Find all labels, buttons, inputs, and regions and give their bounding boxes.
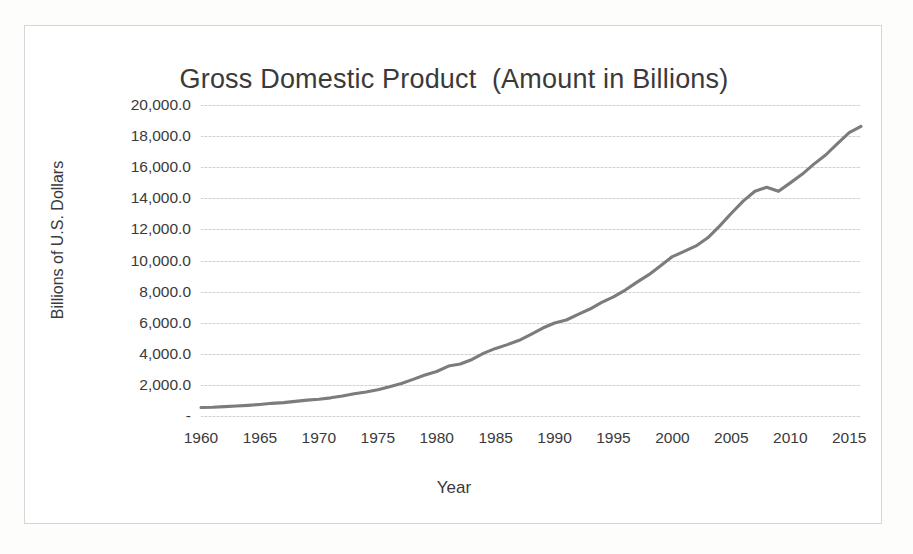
plot-area [201, 105, 861, 416]
x-axis-tick-labels: 1960196519701975198019851990199520002005… [201, 429, 861, 453]
x-tick-label: 1990 [525, 429, 585, 447]
chart-frame: Gross Domestic Product (Amount in Billio… [24, 25, 882, 524]
y-tick-label: 4,000.0 [99, 346, 191, 362]
y-tick-label: 6,000.0 [99, 315, 191, 331]
y-tick-label: 16,000.0 [99, 159, 191, 175]
x-tick-label: 1960 [171, 429, 231, 447]
gdp-line-path [201, 126, 861, 407]
x-tick-label: 2010 [760, 429, 820, 447]
x-tick-label: 1970 [289, 429, 349, 447]
y-tick-label: 12,000.0 [99, 221, 191, 237]
y-tick-label: 20,000.0 [99, 97, 191, 113]
y-tick-label: 10,000.0 [99, 253, 191, 269]
y-tick-label: 18,000.0 [99, 128, 191, 144]
x-tick-label: 1965 [230, 429, 290, 447]
y-tick-label: 2,000.0 [99, 377, 191, 393]
chart-title: Gross Domestic Product (Amount in Billio… [25, 64, 883, 95]
x-tick-label: 1985 [466, 429, 526, 447]
gridline [201, 416, 861, 417]
y-axis-title: Billions of U.S. Dollars [49, 145, 67, 335]
x-tick-label: 1980 [407, 429, 467, 447]
y-tick-label: - [99, 408, 191, 424]
x-tick-label: 1975 [348, 429, 408, 447]
x-tick-label: 1995 [584, 429, 644, 447]
data-series-gdp [201, 105, 861, 416]
y-axis-tick-labels: 20,000.018,000.016,000.014,000.012,000.0… [99, 105, 191, 416]
y-tick-label: 14,000.0 [99, 190, 191, 206]
y-tick-label: 8,000.0 [99, 284, 191, 300]
x-tick-label: 2000 [642, 429, 702, 447]
x-tick-label: 2005 [701, 429, 761, 447]
x-axis-title: Year [25, 478, 883, 498]
scanned-page-background: Gross Domestic Product (Amount in Billio… [0, 0, 913, 554]
x-tick-label: 2015 [819, 429, 879, 447]
